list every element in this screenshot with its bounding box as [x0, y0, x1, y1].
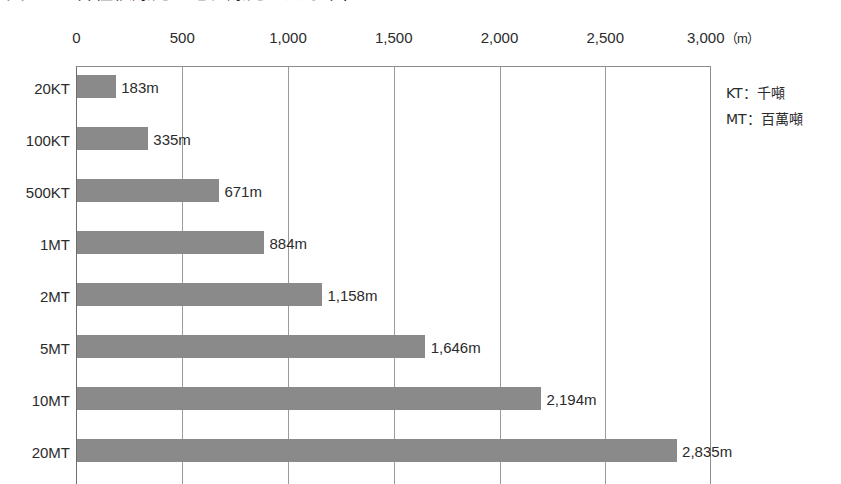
category-label: 1MT: [40, 237, 70, 252]
bar: [77, 179, 219, 202]
legend-entry: MT：百萬噸: [726, 106, 836, 132]
category-label: 20KT: [34, 81, 70, 96]
bar: [77, 387, 541, 410]
bar-value-label: 671m: [224, 184, 262, 199]
bar-value-label: 335m: [153, 132, 191, 147]
bar-row: 10MT2,194m: [0, 378, 841, 430]
legend-entry: KT：千噸: [726, 80, 836, 106]
bar-row: 100KT335m: [0, 118, 841, 170]
category-label: 2MT: [40, 289, 70, 304]
x-tick-label: 500: [170, 30, 195, 45]
bar: [77, 439, 677, 462]
bar-row: 500KT671m: [0, 170, 841, 222]
x-tick-label: 1,000: [269, 30, 307, 45]
bar: [77, 335, 425, 358]
x-tick-label: 2,000: [481, 30, 519, 45]
category-label: 10MT: [32, 393, 70, 408]
horizontal-bar-chart: 05001,0001,5002,0002,5003,000（m） 20KT183…: [0, 0, 841, 484]
legend: KT：千噸MT：百萬噸: [726, 80, 836, 132]
bar-value-label: 2,835m: [682, 444, 732, 459]
x-tick-label: 1,500: [375, 30, 413, 45]
category-label: 5MT: [40, 341, 70, 356]
bar-value-label: 1,646m: [431, 340, 481, 355]
bar: [77, 231, 264, 254]
category-label: 20MT: [32, 445, 70, 460]
bar: [77, 75, 116, 98]
bar-row: 1MT884m: [0, 222, 841, 274]
bar-row: 20KT183m: [0, 66, 841, 118]
x-tick-value: 3,000: [687, 29, 725, 46]
x-tick-label: 3,000（m）: [687, 30, 760, 46]
bar: [77, 283, 322, 306]
category-label: 100KT: [26, 133, 70, 148]
bar-value-label: 183m: [121, 80, 159, 95]
x-tick-label: 2,500: [586, 30, 624, 45]
x-axis-unit-label: （m）: [725, 31, 760, 46]
bar-value-label: 1,158m: [327, 288, 377, 303]
bar-row: 2MT1,158m: [0, 274, 841, 326]
bar-value-label: 884m: [269, 236, 307, 251]
category-label: 500KT: [26, 185, 70, 200]
bar-row: 20MT2,835m: [0, 430, 841, 482]
bar-row: 5MT1,646m: [0, 326, 841, 378]
x-tick-label: 0: [72, 30, 80, 45]
bar: [77, 127, 148, 150]
bar-value-label: 2,194m: [547, 392, 597, 407]
